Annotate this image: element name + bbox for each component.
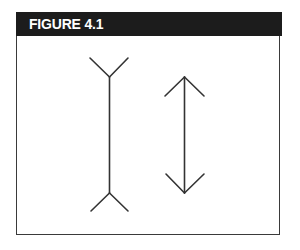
end-segment [110,58,129,77]
fins-outward-line [90,58,128,211]
arrowheads-line [165,77,204,193]
end-segment [185,77,205,96]
end-segment [185,174,205,193]
end-segment [166,174,185,193]
end-segment [110,193,129,211]
end-segment [90,58,110,77]
end-segment [165,77,185,96]
end-segment [91,193,110,211]
muller-lyer-illustration [0,0,300,250]
